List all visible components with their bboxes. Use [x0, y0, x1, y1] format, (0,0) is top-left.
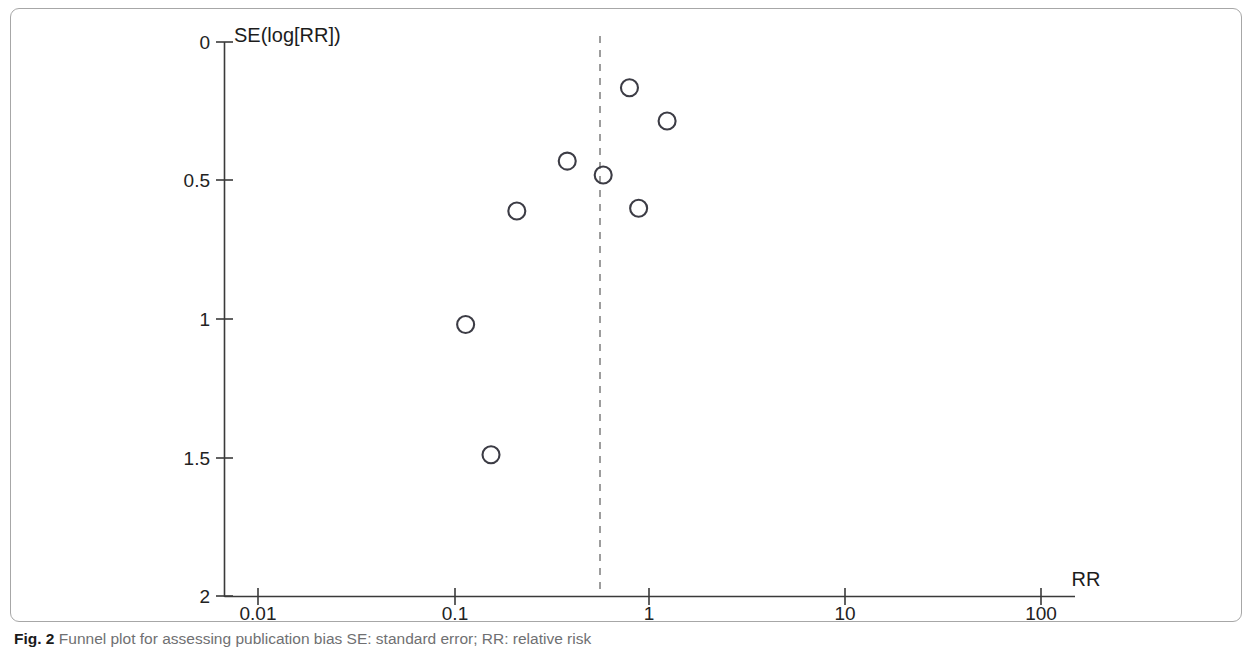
x-tick-label: 0.01	[240, 603, 277, 624]
figure-container: 0 0.5 1 1.5 2 SE(log[RR]) 0.01 0.1 1 10	[0, 0, 1252, 660]
y-tick-label: 0.5	[184, 170, 210, 191]
data-point	[621, 79, 638, 96]
data-point	[595, 166, 612, 183]
data-point	[508, 202, 525, 219]
funnel-plot-svg: 0 0.5 1 1.5 2 SE(log[RR]) 0.01 0.1 1 10	[0, 0, 1252, 624]
x-tick-label: 10	[834, 603, 855, 624]
x-tick-label: 1	[644, 603, 655, 624]
figure-caption: Fig. 2 Funnel plot for assessing publica…	[14, 628, 1234, 650]
data-point	[483, 446, 500, 463]
x-tick-label: 100	[1025, 603, 1057, 624]
funnel-plot: 0 0.5 1 1.5 2 SE(log[RR]) 0.01 0.1 1 10	[0, 0, 1252, 624]
x-axis-tick-labels: 0.01 0.1 1 10 100	[240, 603, 1057, 624]
y-tick-label: 0	[199, 32, 210, 53]
data-point	[659, 112, 676, 129]
y-axis-title: SE(log[RR])	[234, 24, 341, 46]
y-tick-label: 1.5	[184, 448, 210, 469]
data-point	[630, 200, 647, 217]
data-point	[457, 316, 474, 333]
figure-caption-label: Fig. 2	[14, 630, 54, 647]
y-tick-label: 1	[199, 309, 210, 330]
figure-caption-text: Funnel plot for assessing publication bi…	[59, 630, 591, 647]
data-points-layer	[457, 79, 675, 463]
x-axis-title: RR	[1072, 568, 1101, 590]
y-axis-tick-labels: 0 0.5 1 1.5 2	[184, 32, 210, 607]
data-point	[559, 153, 576, 170]
x-tick-label: 0.1	[442, 603, 468, 624]
y-tick-label: 2	[199, 586, 210, 607]
